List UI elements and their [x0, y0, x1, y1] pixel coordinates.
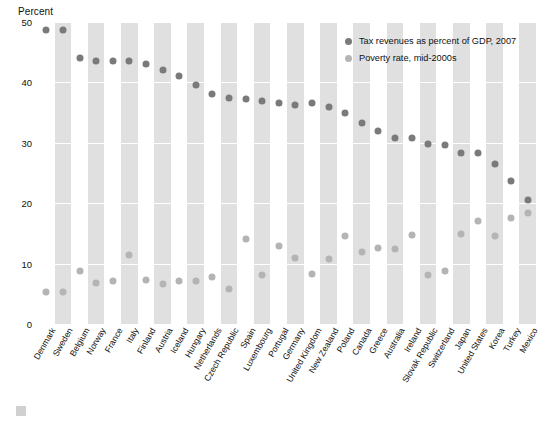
- data-point: [59, 288, 66, 295]
- data-point: [76, 55, 83, 62]
- data-point: [391, 246, 398, 253]
- y-tick-label: 0: [2, 319, 32, 330]
- data-point: [474, 150, 481, 157]
- data-point: [76, 267, 83, 274]
- data-point: [408, 134, 415, 141]
- data-point: [524, 197, 531, 204]
- data-point: [342, 232, 349, 239]
- data-point: [524, 209, 531, 216]
- data-point: [209, 274, 216, 281]
- data-point: [292, 254, 299, 261]
- category-band: [121, 22, 138, 324]
- data-point: [93, 57, 100, 64]
- data-point: [508, 177, 515, 184]
- data-point: [242, 235, 249, 242]
- y-tick-label: 50: [2, 17, 32, 28]
- data-point: [358, 248, 365, 255]
- data-point: [458, 150, 465, 157]
- data-point: [109, 57, 116, 64]
- data-point: [93, 279, 100, 286]
- gridline: [38, 264, 536, 265]
- data-point: [159, 281, 166, 288]
- y-tick-label: 20: [2, 198, 32, 209]
- data-point: [225, 285, 232, 292]
- legend-item-tax: Tax revenues as percent of GDP, 2007: [345, 36, 516, 46]
- data-point: [408, 231, 415, 238]
- footnote-marker-icon: [16, 406, 26, 416]
- data-point: [325, 103, 332, 110]
- gridline: [38, 143, 536, 144]
- category-band: [221, 22, 238, 324]
- gridline: [38, 82, 536, 83]
- data-point: [375, 127, 382, 134]
- data-point: [292, 102, 299, 109]
- data-point: [259, 98, 266, 105]
- data-point: [308, 99, 315, 106]
- legend-label-poverty: Poverty rate, mid-2000s: [359, 53, 457, 63]
- legend-label-tax: Tax revenues as percent of GDP, 2007: [359, 36, 516, 46]
- data-point: [275, 243, 282, 250]
- data-point: [391, 134, 398, 141]
- category-band: [320, 22, 337, 324]
- y-tick-label: 30: [2, 137, 32, 148]
- data-point: [491, 160, 498, 167]
- data-point: [358, 119, 365, 126]
- data-point: [508, 215, 515, 222]
- data-point: [59, 26, 66, 33]
- chart-figure: Percent 01020304050 DenmarkSwedenBelgium…: [0, 0, 550, 421]
- data-point: [126, 58, 133, 65]
- data-point: [176, 73, 183, 80]
- data-point: [375, 244, 382, 251]
- data-point: [176, 278, 183, 285]
- data-point: [209, 91, 216, 98]
- data-point: [325, 255, 332, 262]
- data-point: [192, 82, 199, 89]
- data-point: [159, 66, 166, 73]
- category-band: [287, 22, 304, 324]
- y-tick-label: 40: [2, 77, 32, 88]
- data-point: [43, 26, 50, 33]
- gridline: [38, 203, 536, 204]
- legend-marker-poverty-icon: [345, 55, 352, 62]
- x-axis-tick-labels: DenmarkSwedenBelgiumNorwayFranceItalyFin…: [38, 326, 536, 406]
- y-axis-title: Percent: [18, 6, 53, 17]
- data-point: [142, 61, 149, 68]
- data-point: [491, 232, 498, 239]
- data-point: [308, 270, 315, 277]
- data-point: [126, 252, 133, 259]
- data-point: [43, 288, 50, 295]
- legend-item-poverty: Poverty rate, mid-2000s: [345, 53, 516, 63]
- data-point: [425, 272, 432, 279]
- data-point: [225, 95, 232, 102]
- data-point: [275, 99, 282, 106]
- chart-legend: Tax revenues as percent of GDP, 2007 Pov…: [345, 36, 516, 70]
- data-point: [242, 96, 249, 103]
- data-point: [342, 110, 349, 117]
- data-point: [425, 141, 432, 148]
- data-point: [474, 217, 481, 224]
- legend-marker-tax-icon: [345, 38, 352, 45]
- data-point: [142, 276, 149, 283]
- data-point: [441, 141, 448, 148]
- category-band: [519, 22, 536, 324]
- data-point: [458, 231, 465, 238]
- data-point: [109, 278, 116, 285]
- data-point: [441, 268, 448, 275]
- y-tick-label: 10: [2, 258, 32, 269]
- data-point: [192, 278, 199, 285]
- gridline: [38, 22, 536, 23]
- category-band: [55, 22, 72, 324]
